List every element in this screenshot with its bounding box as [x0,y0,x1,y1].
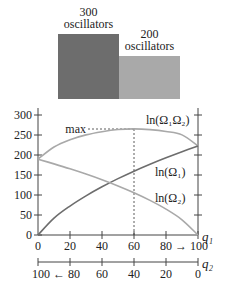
y-tick-label: 150 [14,168,32,182]
x-tick-label: 40 [96,239,108,253]
x-axis-label: q₁ [202,229,213,244]
x-tick-label: 60 [128,239,140,253]
x2-tick-label: 40 [128,267,140,281]
y-tick-label: 50 [20,208,32,222]
y-tick-label: 300 [14,108,32,122]
x2-tick-label: 20 [160,267,172,281]
label-omega1: ln(Ω₁) [155,165,185,179]
x2-tick-label: 0 [195,267,201,281]
x-tick-label: 80 → 100 [160,239,208,253]
x2-tick-label: 100 ← 80 [32,267,80,281]
y-tick-label: 100 [14,188,32,202]
y-tick-label: 0 [26,228,32,242]
x2-tick-label: 60 [96,267,108,281]
x2-axis-label: q₂ [202,256,214,271]
entropy-chart: 050100150200250300020406080 → 100100 ← 8… [0,0,229,286]
max-annotation: max [65,122,86,136]
x-tick-label: 20 [64,239,76,253]
x-tick-label: 0 [35,239,41,253]
label-sum: ln(Ω₁Ω₂) [146,113,190,127]
label-omega2: ln(Ω₂) [155,191,185,205]
y-tick-label: 250 [14,128,32,142]
y-tick-label: 200 [14,148,32,162]
